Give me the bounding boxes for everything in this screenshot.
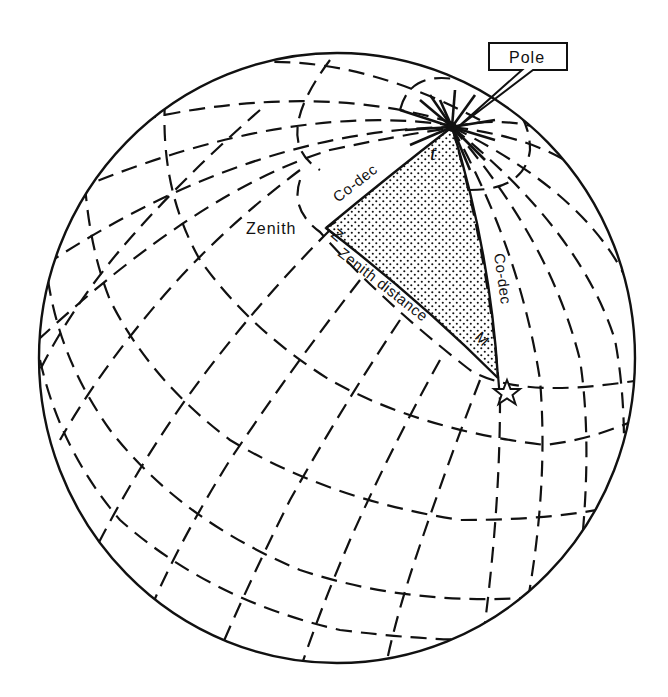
- pole-callout: Pole: [458, 43, 567, 127]
- codec-right-label: Co-dec: [491, 252, 515, 305]
- celestial-sphere-figure: Pole Zenith Z t Co-dec Co-dec Zenith dis…: [0, 0, 668, 697]
- hour-angle-label: t: [430, 140, 437, 165]
- coordinate-grid: [38, 60, 640, 670]
- zenith-label: Zenith: [246, 220, 296, 237]
- pole-label: Pole: [509, 49, 545, 66]
- caption-clipped: [0, 688, 668, 697]
